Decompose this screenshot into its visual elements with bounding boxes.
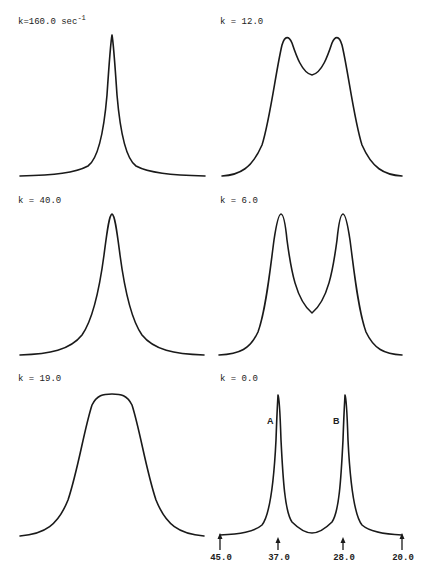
arrow-37 <box>276 537 281 550</box>
arrow-28 <box>341 537 346 550</box>
curve-k19 <box>20 394 204 536</box>
curve-k160 <box>20 35 205 176</box>
curve-k40 <box>20 214 204 355</box>
lineshape-figure <box>0 0 432 574</box>
curve-k6 <box>219 214 402 355</box>
curve-k12 <box>222 38 402 176</box>
curve-k0 <box>220 395 402 535</box>
